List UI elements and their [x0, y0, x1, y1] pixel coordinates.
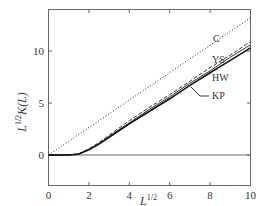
- x-ticks: 0246810: [46, 10, 257, 202]
- label-c: C: [213, 33, 220, 44]
- kp-leader-line: [191, 87, 209, 96]
- x-tick-label: 8: [207, 189, 213, 201]
- y-axis-label: L1/2K(L): [14, 92, 29, 133]
- x-axis-label: L1/2: [139, 193, 157, 206]
- x-tick-label: 4: [127, 189, 133, 201]
- y-tick-label: 10: [33, 45, 45, 57]
- series-c-line: [49, 18, 251, 155]
- chart: 0246810 0510 CYSHWKP L1/2 L1/2K(L): [0, 0, 270, 206]
- y-tick-label: 5: [39, 97, 45, 109]
- series-lines: [49, 18, 251, 155]
- label-hw: HW: [212, 72, 229, 83]
- y-tick-label: 0: [39, 149, 45, 161]
- series-labels: CYSHWKP: [191, 33, 229, 101]
- x-tick-label: 0: [46, 189, 52, 201]
- x-tick-label: 10: [245, 189, 257, 201]
- label-kp: KP: [212, 90, 225, 101]
- x-tick-label: 6: [167, 189, 173, 201]
- label-ys: YS: [212, 54, 225, 65]
- x-tick-label: 2: [86, 189, 92, 201]
